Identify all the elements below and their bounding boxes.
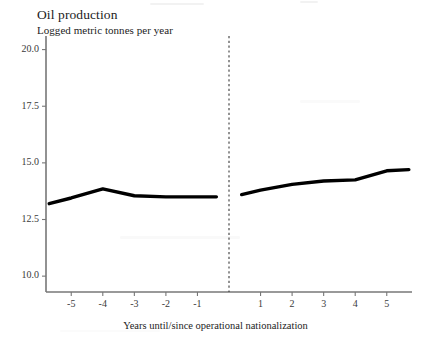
- y-axis: 20.017.515.012.510.0: [22, 36, 47, 292]
- x-tick-label: 5: [384, 298, 389, 309]
- x-tick-label: 3: [321, 298, 326, 309]
- series-line: [49, 189, 216, 204]
- y-tick-label: 10.0: [22, 269, 40, 280]
- x-tick-label: -3: [130, 298, 138, 309]
- y-tick-label: 15.0: [22, 156, 40, 167]
- y-tick-label: 20.0: [22, 43, 40, 54]
- y-tick-label: 17.5: [22, 100, 40, 111]
- series-line: [242, 170, 409, 195]
- x-tick-label: 2: [290, 298, 295, 309]
- x-tick-label: -5: [67, 298, 75, 309]
- x-axis-label: Years until/since operational nationaliz…: [0, 320, 431, 331]
- x-tick-label: -2: [162, 298, 170, 309]
- x-tick-label: 1: [258, 298, 263, 309]
- y-tick-label: 12.5: [22, 213, 40, 224]
- x-tick-label: 4: [353, 298, 358, 309]
- x-tick-label: -1: [193, 298, 201, 309]
- x-axis: -5-4-3-2-112345: [46, 292, 412, 309]
- chart-plot-area: 20.017.515.012.510.0 -5-4-3-2-112345: [0, 0, 431, 346]
- x-tick-label: -4: [99, 298, 107, 309]
- oil-production-figure: Oil production Logged metric tonnes per …: [0, 0, 431, 346]
